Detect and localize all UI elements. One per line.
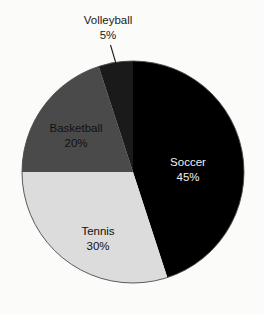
- slice-label-soccer-value: 45%: [176, 171, 199, 183]
- slice-label-basketball-value: 20%: [64, 137, 87, 149]
- slice-label-basketball-name: Basketball: [49, 122, 102, 134]
- slice-label-tennis-name: Tennis: [81, 225, 114, 237]
- slice-label-soccer-name: Soccer: [170, 156, 206, 168]
- slice-label-volleyball-value: 5%: [100, 29, 117, 41]
- pie-chart-figure: Soccer 45% Tennis 30% Basketball 20% Vol…: [0, 0, 264, 315]
- pie-chart-svg: Soccer 45% Tennis 30% Basketball 20% Vol…: [0, 0, 264, 315]
- slice-label-tennis-value: 30%: [86, 240, 109, 252]
- slice-label-volleyball-name: Volleyball: [84, 14, 133, 26]
